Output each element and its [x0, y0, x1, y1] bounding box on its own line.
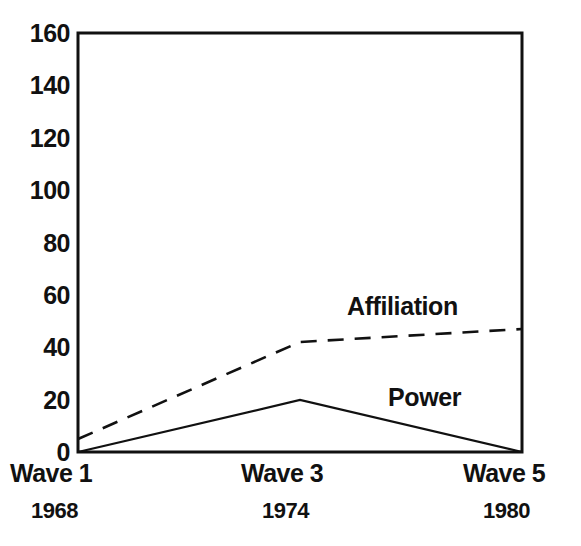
x-axis-year-label-1968: 1968: [31, 498, 78, 524]
x-axis-tick-label-wave-3: Wave 3: [241, 459, 323, 488]
series-label-power: Power: [388, 383, 461, 412]
x-axis-year-label-1980: 1980: [483, 498, 530, 524]
x-axis-tick-label-wave-1: Wave 1: [10, 459, 92, 488]
line-chart: 160 140 120 100 80 60 40 20 0 Affiliatio…: [0, 0, 581, 546]
x-axis-year-label-1974: 1974: [262, 498, 309, 524]
chart-page: 160 140 120 100 80 60 40 20 0 Affiliatio…: [0, 0, 581, 546]
series-label-affiliation: Affiliation: [347, 292, 458, 321]
x-axis-tick-label-wave-5: Wave 5: [463, 459, 545, 488]
